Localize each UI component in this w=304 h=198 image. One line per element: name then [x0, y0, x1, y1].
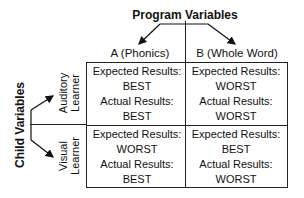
results-grid: Expected Results: BEST Actual Results: B…: [86, 62, 288, 188]
cell-auditory-wholeword: Expected Results: WORST Actual Results: …: [186, 63, 286, 125]
arrow-to-column-b: [208, 24, 235, 44]
cell-auditory-phonics: Expected Results: BEST Actual Results: B…: [87, 63, 187, 125]
row-divider-left: [30, 124, 86, 125]
row-label-auditory: Auditory Learner: [57, 63, 81, 123]
program-variables-label: Program Variables: [130, 8, 240, 22]
cell-visual-phonics: Expected Results: WORST Actual Results: …: [87, 126, 187, 188]
arrow-to-column-a: [139, 24, 160, 44]
child-variables-label: Child Variables: [13, 80, 27, 170]
column-header-a: A (Phonics): [90, 47, 190, 59]
column-header-b: B (Whole Word): [187, 47, 287, 59]
arrow-to-auditory: [31, 96, 53, 110]
cell-visual-wholeword: Expected Results: BEST Actual Results: W…: [186, 126, 286, 188]
arrow-to-visual: [31, 140, 53, 157]
row-label-visual: Visual Learner: [57, 126, 81, 186]
